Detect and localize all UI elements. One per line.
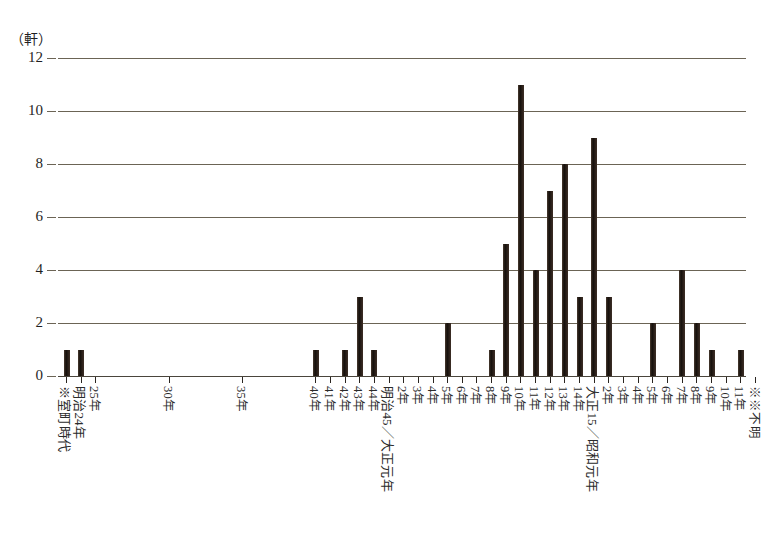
y-tick-label: 0 xyxy=(3,368,43,383)
gridline-y-4 xyxy=(58,270,746,271)
x-tick-mark xyxy=(433,377,434,383)
x-axis-label: 11年 xyxy=(527,386,540,412)
bar xyxy=(357,297,363,377)
y-tick-label: 12 xyxy=(3,50,43,65)
x-tick-mark xyxy=(520,377,521,383)
x-tick-mark xyxy=(330,377,331,383)
y-tick-mark-0 xyxy=(47,376,56,377)
x-tick-mark xyxy=(447,377,448,383)
x-axis-label: 3年 xyxy=(615,386,628,406)
bar xyxy=(533,270,539,376)
x-tick-mark xyxy=(403,377,404,383)
x-axis-label: 44年 xyxy=(366,386,379,412)
x-axis-label: 明治24年 xyxy=(72,386,85,439)
y-tick-mark-8 xyxy=(47,164,56,165)
x-tick-mark xyxy=(242,377,243,383)
gridline-y-6 xyxy=(58,217,746,218)
x-tick-mark xyxy=(711,377,712,383)
x-axis-label: 8年 xyxy=(689,386,702,406)
y-tick-label: 4 xyxy=(3,262,43,277)
x-axis-label: 9年 xyxy=(703,386,716,406)
y-tick-mark-4 xyxy=(47,270,56,271)
x-axis-label: 5年 xyxy=(645,386,658,406)
bar xyxy=(78,350,84,377)
x-tick-mark xyxy=(740,377,741,383)
x-tick-mark xyxy=(389,377,390,383)
bar xyxy=(547,191,553,377)
x-tick-mark xyxy=(667,377,668,383)
bar xyxy=(709,350,715,377)
x-tick-mark xyxy=(726,377,727,383)
x-tick-mark xyxy=(652,377,653,383)
gridline-y-8 xyxy=(58,164,746,165)
x-tick-mark xyxy=(506,377,507,383)
gridline-y-2 xyxy=(58,323,746,324)
bar xyxy=(503,244,509,377)
y-tick-label: 6 xyxy=(3,209,43,224)
x-axis-label: 11年 xyxy=(733,386,746,412)
bar xyxy=(518,85,524,377)
x-tick-mark xyxy=(594,377,595,383)
plot-area xyxy=(58,58,746,376)
x-axis-label: 明治45／大正元年 xyxy=(380,386,393,492)
x-axis-label: 2年 xyxy=(395,386,408,406)
x-tick-mark xyxy=(550,377,551,383)
x-axis-label: 30年 xyxy=(161,386,174,412)
bar-chart: （軒） 024681012※室町時代明治24年25年30年35年40年41年42… xyxy=(0,0,766,560)
y-axis-unit-label: （軒） xyxy=(10,28,52,48)
x-axis-label: 4年 xyxy=(425,386,438,406)
x-axis-label: 10年 xyxy=(513,386,526,412)
x-tick-mark xyxy=(638,377,639,383)
x-tick-mark xyxy=(755,377,756,383)
x-axis-label: 大正15／昭和元年 xyxy=(586,386,599,492)
x-axis-label: 40年 xyxy=(307,386,320,412)
bar xyxy=(577,297,583,377)
bar xyxy=(445,323,451,376)
x-tick-mark xyxy=(359,377,360,383)
x-tick-mark xyxy=(345,377,346,383)
y-tick-mark-10 xyxy=(47,111,56,112)
bar xyxy=(342,350,348,377)
x-tick-mark xyxy=(95,377,96,383)
x-axis-label: ※室町時代 xyxy=(58,386,71,452)
x-axis-label: 14年 xyxy=(571,386,584,412)
y-tick-label: 10 xyxy=(3,103,43,118)
bar xyxy=(371,350,377,377)
x-tick-mark xyxy=(491,377,492,383)
x-tick-mark xyxy=(535,377,536,383)
x-axis-label: 9年 xyxy=(498,386,511,406)
x-axis-label: 10年 xyxy=(718,386,731,412)
x-axis-label: 8年 xyxy=(483,386,496,406)
x-tick-mark xyxy=(66,377,67,383)
x-axis-label: 6年 xyxy=(454,386,467,406)
bar xyxy=(64,350,70,377)
x-tick-mark xyxy=(564,377,565,383)
x-tick-mark xyxy=(696,377,697,383)
x-tick-mark xyxy=(579,377,580,383)
x-tick-mark xyxy=(462,377,463,383)
x-tick-mark xyxy=(169,377,170,383)
x-axis-label: 7年 xyxy=(469,386,482,406)
x-axis-label: 5年 xyxy=(439,386,452,406)
bar xyxy=(489,350,495,377)
gridline-y-12 xyxy=(58,58,746,59)
x-axis-label: 6年 xyxy=(659,386,672,406)
y-tick-label: 8 xyxy=(3,156,43,171)
bar xyxy=(591,138,597,377)
y-tick-mark-2 xyxy=(47,323,56,324)
y-tick-mark-12 xyxy=(47,58,56,59)
x-axis-label: 35年 xyxy=(234,386,247,412)
x-tick-mark xyxy=(476,377,477,383)
y-tick-label: 2 xyxy=(3,315,43,330)
bar xyxy=(313,350,319,377)
bar xyxy=(606,297,612,377)
x-tick-mark xyxy=(315,377,316,383)
x-tick-mark xyxy=(623,377,624,383)
x-axis-label: 4年 xyxy=(630,386,643,406)
x-tick-mark xyxy=(81,377,82,383)
y-tick-mark-6 xyxy=(47,217,56,218)
x-axis-label: 43年 xyxy=(351,386,364,412)
bar xyxy=(650,323,656,376)
x-axis-label: 25年 xyxy=(88,386,101,412)
x-tick-mark xyxy=(682,377,683,383)
